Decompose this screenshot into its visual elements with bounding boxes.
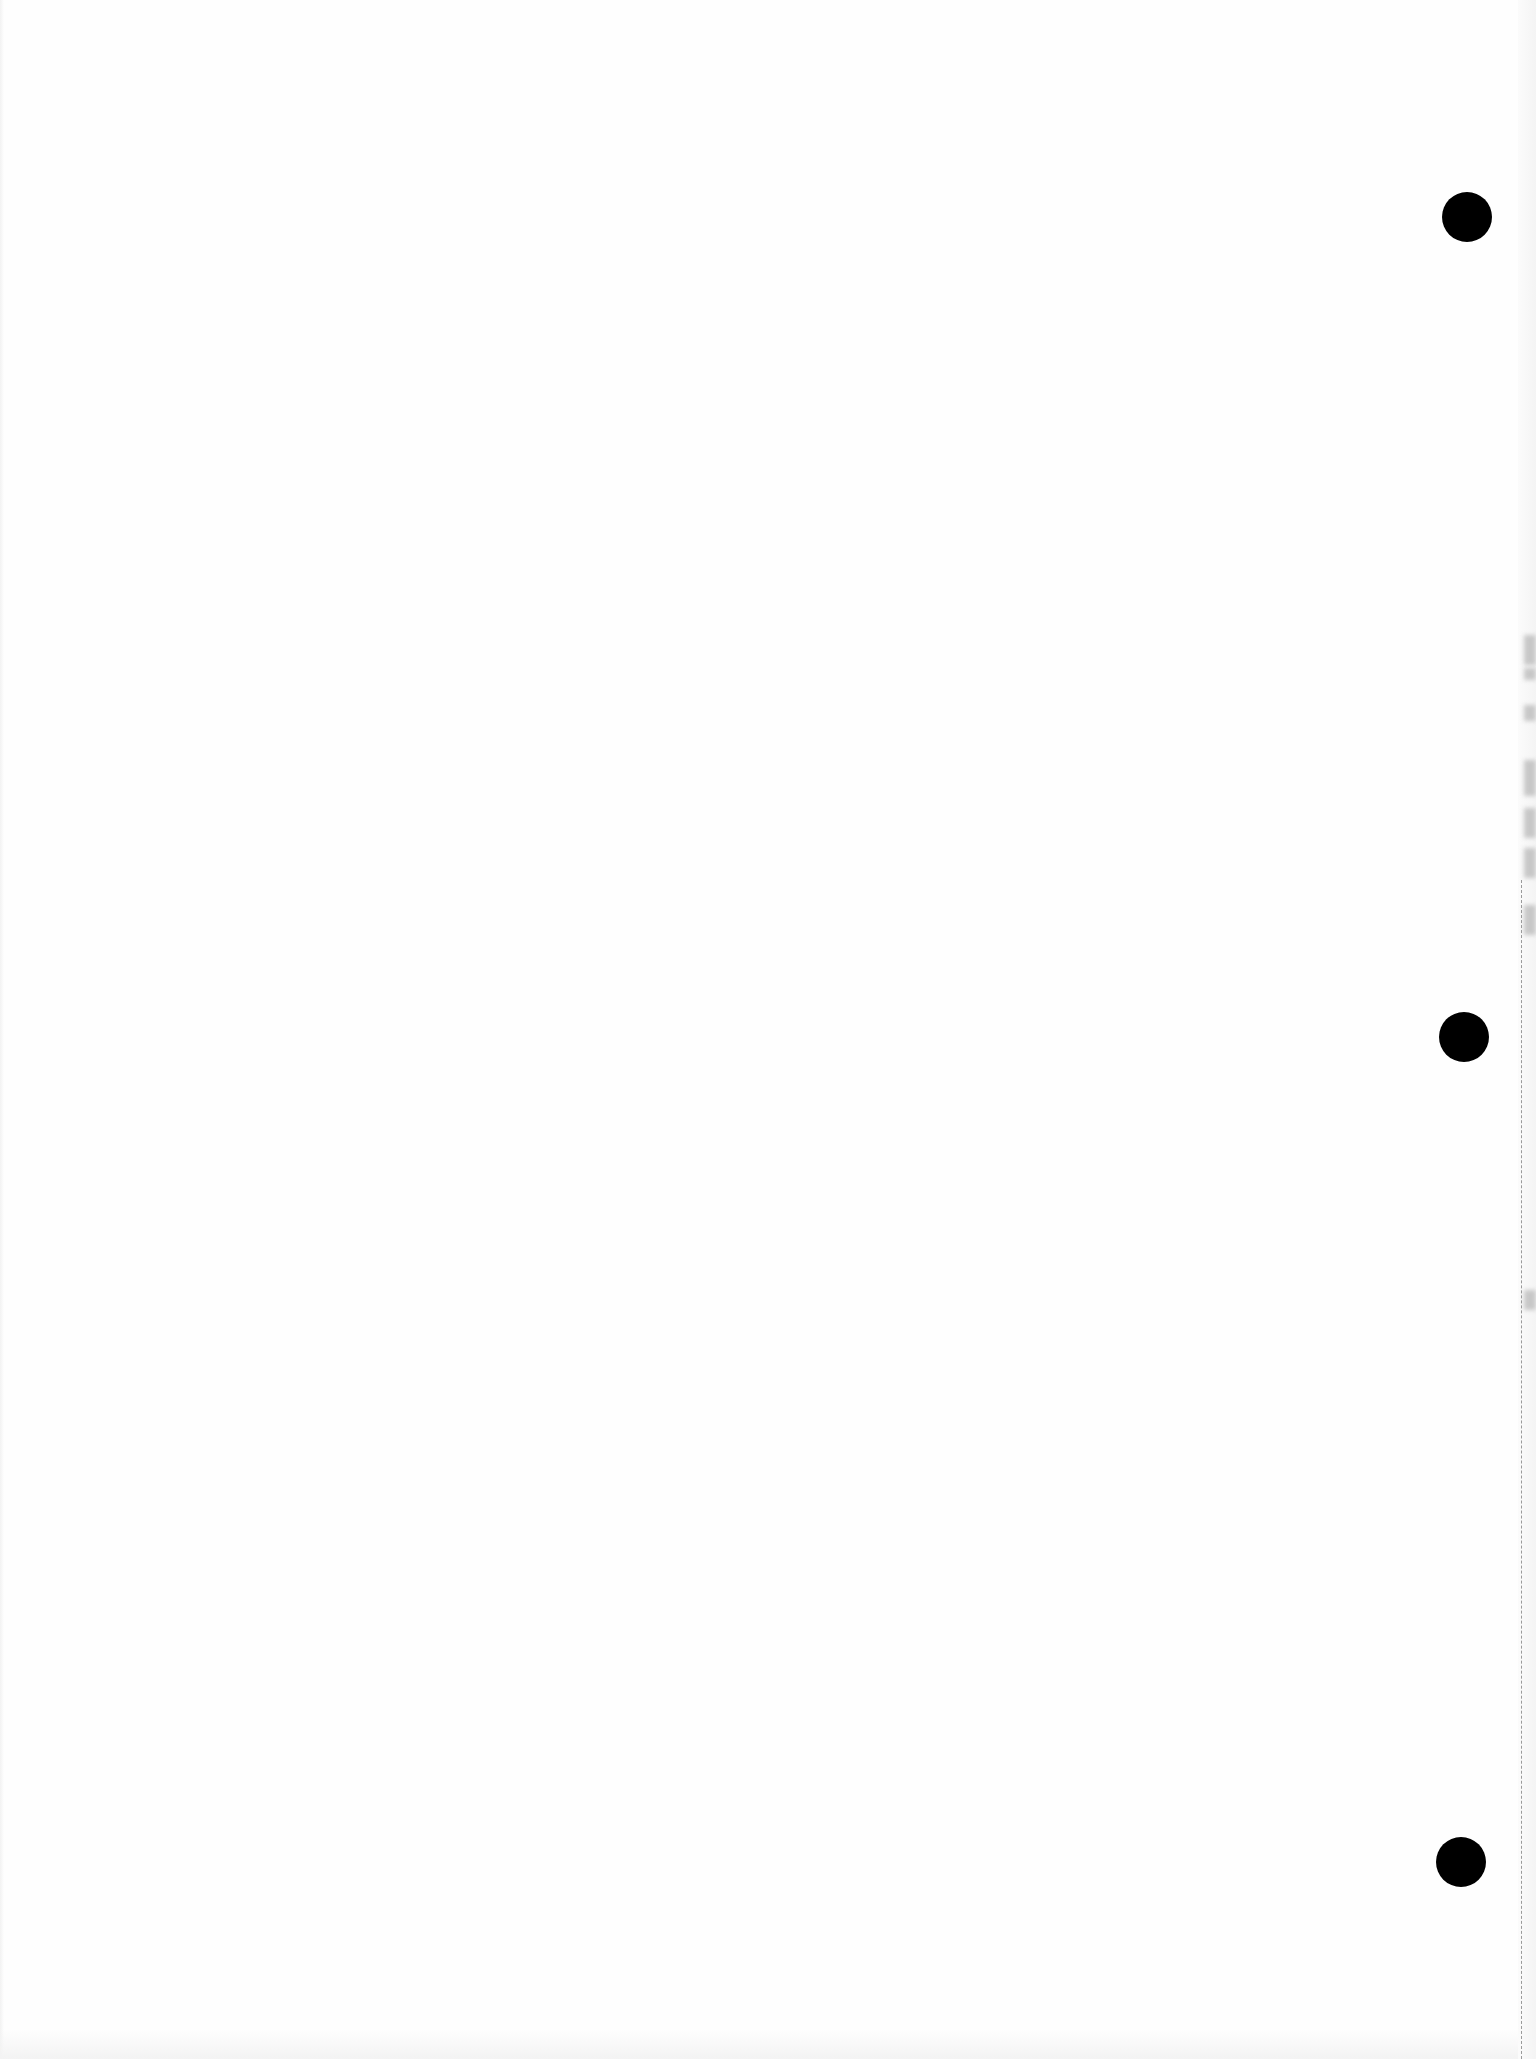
scan-shadow-segment [1524, 1290, 1536, 1310]
scan-shadow-segment [1524, 905, 1536, 935]
scan-shadow-segment [1524, 808, 1536, 838]
punch-hole-2 [1439, 1012, 1489, 1062]
bottom-edge-shade [0, 2029, 1536, 2059]
punch-hole-1 [1442, 192, 1492, 242]
scan-shadow-segment [1524, 635, 1536, 665]
blank-page [0, 0, 1536, 2059]
punch-hole-3 [1436, 1837, 1486, 1887]
left-edge-shade [0, 0, 4, 2059]
scan-shadow-segment [1524, 848, 1536, 878]
scan-shadow-segment [1524, 760, 1536, 796]
scan-shadow-segment [1524, 705, 1536, 721]
dashed-edge-line [1521, 880, 1522, 2059]
scan-shadow-segment [1524, 668, 1536, 680]
